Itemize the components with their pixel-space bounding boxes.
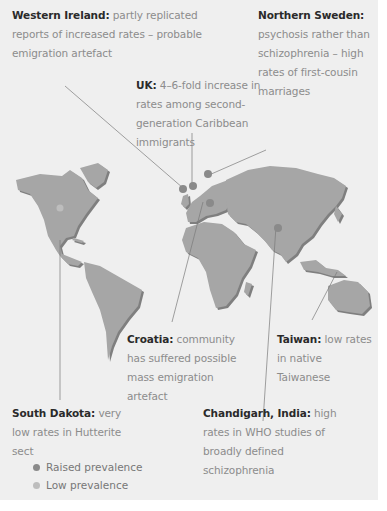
annotation-south-dakota: South Dakota: very low rates in Hutterit…: [12, 404, 127, 461]
low-dot-icon: [33, 482, 40, 489]
legend-label: Raised prevalence: [46, 458, 142, 476]
caribbean: [72, 238, 84, 243]
africa: [182, 222, 256, 308]
annotation-taiwan: Taiwan: low rates in native Taiwanese: [277, 330, 372, 387]
annotation-chandigarh: Chandigarh, India: high rates in WHO stu…: [203, 404, 353, 480]
annotation-title: South Dakota:: [12, 407, 95, 419]
legend: Raised prevalence Low prevalence: [33, 458, 142, 494]
legend-label: Low prevalence: [46, 476, 128, 494]
annotation-title: Western Ireland:: [12, 9, 110, 21]
marker-western-ireland: [179, 185, 187, 193]
annotation-title: Northern Sweden:: [258, 9, 364, 21]
legend-item-raised: Raised prevalence: [33, 458, 142, 476]
raised-dot-icon: [33, 464, 40, 471]
marker-south-dakota: [57, 205, 64, 212]
japan: [334, 206, 342, 222]
marker-uk: [189, 182, 197, 190]
annotation-title: Chandigarh, India:: [203, 407, 311, 419]
annotation-croatia: Croatia: community has suffered possible…: [127, 330, 242, 406]
southeast-asia-islands: [300, 260, 346, 276]
annotation-title: Croatia:: [127, 333, 173, 345]
madagascar: [244, 282, 252, 296]
annotation-uk: UK: 4–6-fold increase in rates among sec…: [136, 76, 286, 152]
annotation-western-ireland: Western Ireland: partly replicated repor…: [12, 6, 202, 63]
marker-croatia: [206, 199, 214, 207]
australia: [328, 280, 370, 314]
marker-northern-sweden: [204, 170, 212, 178]
annotation-title: UK:: [136, 79, 157, 91]
legend-item-low: Low prevalence: [33, 476, 142, 494]
british-isles: [181, 194, 189, 208]
annotation-title: Taiwan:: [277, 333, 321, 345]
north-america: [16, 170, 98, 266]
marker-chandigarh: [274, 224, 282, 232]
